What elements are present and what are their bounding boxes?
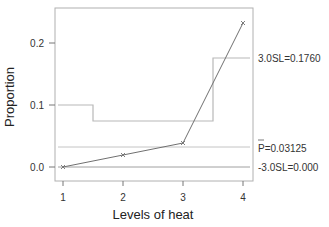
y-tick-label-0: 0.0 [30, 162, 44, 173]
center-label: P=0.03125 [258, 143, 307, 154]
y-tick-label-2: 0.2 [30, 38, 44, 49]
x-tick-label-2: 2 [120, 192, 126, 203]
x-marker-4 [241, 21, 245, 25]
plot-frame [55, 8, 253, 181]
x-tick-label-1: 1 [60, 192, 66, 203]
y-tick-label-1: 0.1 [30, 100, 44, 111]
ucl-label: 3.0SL=0.1760 [258, 53, 321, 64]
proportion-line [63, 23, 243, 167]
y-axis: 0.0 0.1 0.2 Proportion [2, 38, 55, 173]
x-tick-label-3: 3 [180, 192, 186, 203]
p-chart: 0.0 0.1 0.2 Proportion 1 2 3 4 Levels of… [0, 0, 329, 227]
x-axis-title: Levels of heat [113, 207, 194, 222]
x-axis: 1 2 3 4 Levels of heat [60, 181, 246, 222]
y-axis-title: Proportion [2, 67, 17, 127]
lcl-label: -3.0SL=0.000 [258, 162, 319, 173]
x-tick-label-4: 4 [240, 192, 246, 203]
